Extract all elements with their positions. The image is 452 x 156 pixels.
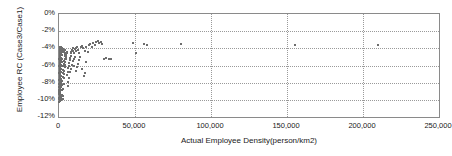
data-point <box>75 70 77 72</box>
data-point <box>132 42 134 44</box>
scatter-chart: 0%-2%-4%-6%-8%-10%-12% 050,000100,000150… <box>0 0 452 156</box>
data-point <box>64 64 66 66</box>
data-point <box>105 57 107 59</box>
y-tick-label: -2% <box>42 26 55 34</box>
data-point <box>143 43 145 45</box>
y-tick-label: -8% <box>42 78 55 86</box>
data-point <box>58 91 60 93</box>
data-point <box>84 72 86 74</box>
data-point <box>101 43 103 45</box>
y-tick-label: -6% <box>42 61 55 69</box>
data-point <box>83 75 85 77</box>
data-point <box>110 58 112 60</box>
y-axis-title: Employee RC (Case3/Case1) <box>15 0 24 120</box>
data-point <box>68 62 70 64</box>
data-point <box>59 52 61 54</box>
data-point <box>65 54 67 56</box>
data-point <box>61 89 63 91</box>
data-point <box>74 56 76 58</box>
data-point <box>67 81 69 83</box>
data-point <box>64 66 66 68</box>
data-point <box>377 44 379 46</box>
gridline-horizontal <box>59 66 439 67</box>
y-tick-label: 0% <box>44 9 55 17</box>
x-tick-label: 150,000 <box>272 121 299 130</box>
data-point <box>77 63 79 65</box>
data-point <box>84 50 86 52</box>
data-point <box>85 46 87 48</box>
data-point <box>59 74 61 76</box>
data-point <box>85 61 87 63</box>
data-point <box>68 65 70 67</box>
data-point <box>91 46 93 48</box>
data-point <box>79 56 81 58</box>
data-point <box>69 59 71 61</box>
data-point <box>64 52 66 54</box>
gridline-horizontal <box>59 83 439 84</box>
data-point <box>73 65 75 67</box>
data-point <box>73 58 75 60</box>
data-point <box>70 52 72 54</box>
data-point <box>70 68 72 70</box>
gridline-vertical <box>135 14 136 117</box>
data-point <box>64 61 66 63</box>
data-point <box>146 44 148 46</box>
y-tick-label: -12% <box>37 112 55 120</box>
data-point <box>73 52 75 54</box>
x-tick-label: 0 <box>56 121 60 130</box>
gridline-horizontal <box>59 31 439 32</box>
gridline-horizontal <box>59 100 439 101</box>
data-point <box>76 46 78 48</box>
data-point <box>87 51 89 53</box>
data-point <box>59 66 61 68</box>
gridline-vertical <box>211 14 212 117</box>
gridline-vertical <box>363 14 364 117</box>
data-point <box>58 101 60 103</box>
plot-area <box>58 13 440 118</box>
data-point <box>69 57 71 59</box>
data-point <box>59 71 61 73</box>
data-point <box>77 49 79 51</box>
data-point <box>64 49 66 51</box>
data-point <box>94 44 96 46</box>
data-point <box>63 73 65 75</box>
data-point <box>67 85 69 87</box>
data-point <box>61 84 63 86</box>
data-point <box>76 66 78 68</box>
x-tick-label: 100,000 <box>196 121 223 130</box>
x-axis-tick-labels: 050,000100,000150,000200,000250,000 <box>58 121 440 133</box>
data-point <box>78 52 80 54</box>
data-point <box>59 68 61 70</box>
x-tick-label: 50,000 <box>123 121 146 130</box>
gridline-vertical <box>287 14 288 117</box>
data-point <box>62 88 64 90</box>
data-point <box>70 55 72 57</box>
data-point <box>135 52 137 54</box>
data-point <box>63 77 65 79</box>
gridline-horizontal <box>59 48 439 49</box>
data-point <box>72 60 74 62</box>
data-point <box>68 77 70 79</box>
x-tick-label: 250,000 <box>424 121 451 130</box>
data-point <box>66 52 68 54</box>
y-tick-label: -10% <box>37 95 55 103</box>
data-point <box>63 70 65 72</box>
data-point <box>63 83 65 85</box>
data-point <box>62 98 64 100</box>
data-point <box>62 95 64 97</box>
y-axis-tick-labels: 0%-2%-4%-6%-8%-10%-12% <box>0 13 55 118</box>
data-point <box>65 58 67 60</box>
data-point <box>61 54 63 56</box>
x-axis-title: Actual Employee Density(person/km2) <box>58 136 440 145</box>
data-point <box>81 68 83 70</box>
data-point <box>180 43 182 45</box>
data-point <box>78 59 80 61</box>
data-point <box>69 71 71 73</box>
data-point <box>65 56 67 58</box>
y-tick-label: -4% <box>42 43 55 51</box>
x-tick-label: 200,000 <box>348 121 375 130</box>
data-point <box>294 44 296 46</box>
data-point <box>58 97 60 99</box>
